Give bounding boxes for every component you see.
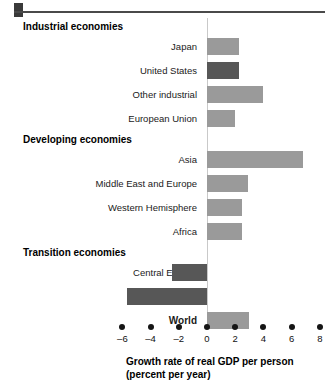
tick-dot--4 — [148, 324, 154, 330]
tick-label--2: –2 — [166, 333, 192, 344]
group-header-transition-economies: Transition economies — [23, 244, 283, 261]
bar-row: United States — [0, 59, 325, 83]
x-axis-title-line1: Growth rate of real GDP per person — [126, 356, 325, 369]
gdp-growth-chart: Industrial economiesJapanUnited StatesOt… — [0, 0, 325, 390]
x-axis: –6–4–202468 — [0, 322, 325, 348]
x-axis-title-line2: (percent per year) — [126, 369, 325, 382]
bar-row: Asia — [0, 148, 325, 172]
bar-middle-east-and-europe — [207, 175, 248, 192]
bar-row: Central Europe — [0, 261, 325, 285]
tick-dot-6 — [289, 324, 295, 330]
bar-united-states — [207, 62, 239, 79]
category-label-asia: Asia — [0, 148, 197, 172]
bar-row: Japan — [0, 35, 325, 59]
bar-western-hemisphere — [207, 199, 242, 216]
tick-dot-0 — [204, 324, 210, 330]
tick-label-2: 2 — [222, 333, 248, 344]
bar-africa — [207, 223, 242, 240]
tick-dot--2 — [176, 324, 182, 330]
bar-row: Africa — [0, 220, 325, 244]
category-label-middle-east-and-europe: Middle East and Europe — [0, 172, 197, 196]
bar-other-industrial — [207, 86, 263, 103]
tick-label-0: 0 — [194, 333, 220, 344]
plot-area: Industrial economiesJapanUnited StatesOt… — [0, 18, 325, 318]
tick-dot-4 — [260, 324, 266, 330]
bar-european-union — [207, 110, 235, 127]
bar-row: Western Hemisphere — [0, 196, 325, 220]
category-label-japan: Japan — [0, 35, 197, 59]
tick-dot-2 — [232, 324, 238, 330]
category-label-other-industrial: Other industrial — [0, 83, 197, 107]
bar-japan — [207, 38, 239, 55]
category-label-western-hemisphere: Western Hemisphere — [0, 196, 197, 220]
group-header-developing-economies: Developing economies — [23, 131, 283, 148]
tick-dot-8 — [317, 324, 323, 330]
tick-label-6: 6 — [279, 333, 305, 344]
category-label-european-union: European Union — [0, 107, 197, 131]
bar-row: Middle East and Europe — [0, 172, 325, 196]
tick-label-8: 8 — [307, 333, 325, 344]
tick-dot--6 — [119, 324, 125, 330]
category-label-united-states: United States — [0, 59, 197, 83]
tick-label--4: –4 — [138, 333, 164, 344]
tick-label-4: 4 — [250, 333, 276, 344]
bar-asia — [207, 151, 303, 168]
bar-row: Russia — [0, 285, 325, 309]
category-label-africa: Africa — [0, 220, 197, 244]
bar-row: European Union — [0, 107, 325, 131]
bar-row: Other industrial — [0, 83, 325, 107]
group-header-industrial-economies: Industrial economies — [23, 18, 283, 35]
header-rule — [14, 11, 325, 13]
bar-central-europe — [172, 264, 207, 281]
bar-russia — [127, 288, 207, 305]
page-marker-square — [14, 3, 23, 17]
x-axis-title: Growth rate of real GDP per person (perc… — [126, 356, 325, 381]
category-label-central-europe: Central Europe — [0, 261, 197, 285]
tick-label--6: –6 — [109, 333, 135, 344]
